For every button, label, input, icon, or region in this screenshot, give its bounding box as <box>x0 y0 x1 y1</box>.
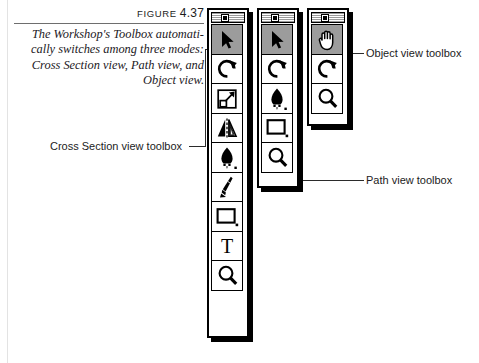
tool-button-magnifier[interactable] <box>261 142 293 173</box>
toolbox-palette-object-view[interactable] <box>307 8 349 126</box>
caption-line: Object view. <box>14 73 204 88</box>
magnifier-icon <box>316 87 339 110</box>
tool-button-arrow-select[interactable] <box>261 24 293 55</box>
arrow-select-icon <box>216 29 238 51</box>
toolbox-palette-cross-section-view[interactable]: T <box>207 8 249 338</box>
palette-titlebar[interactable] <box>211 12 245 23</box>
tool-button-rectangle[interactable] <box>261 113 293 144</box>
scale-icon <box>216 88 238 110</box>
tool-button-rectangle[interactable] <box>211 201 243 232</box>
mirror-icon <box>216 117 238 139</box>
magnifier-icon <box>266 146 289 169</box>
close-box-icon[interactable] <box>271 14 279 22</box>
rectangle-icon <box>215 206 239 228</box>
palette-titlebar[interactable] <box>261 12 295 23</box>
tool-button-magnifier[interactable] <box>211 260 243 291</box>
tool-button-mirror[interactable] <box>211 113 243 144</box>
caption-line: Cross Section view, Path view, and <box>14 58 204 73</box>
tool-button-rotate[interactable] <box>261 54 293 85</box>
hand-icon <box>315 28 339 52</box>
brush-icon <box>216 175 238 199</box>
tool-button-brush[interactable] <box>211 172 243 203</box>
figure-label-number: 4.37 <box>180 6 204 20</box>
tool-column: T <box>211 24 245 291</box>
callout-label-cross-section: Cross Section view toolbox <box>50 140 182 152</box>
rotate-icon <box>316 58 339 80</box>
svg-text:T: T <box>221 235 233 257</box>
tool-column <box>311 24 345 114</box>
close-box-icon[interactable] <box>221 14 229 22</box>
callout-label-path-view: Path view toolbox <box>366 174 452 186</box>
tool-button-rotate[interactable] <box>211 54 243 85</box>
toolbox-palette-path-view[interactable] <box>257 8 299 188</box>
page-gutter-rule <box>7 0 8 363</box>
close-box-icon[interactable] <box>321 14 329 22</box>
tool-button-rotate[interactable] <box>311 54 343 85</box>
tool-button-scale[interactable] <box>211 83 243 114</box>
caption-line: The Workshop's Toolbox automati- <box>14 27 204 42</box>
tool-button-text-tool[interactable]: T <box>211 231 243 262</box>
tool-column <box>261 24 295 173</box>
pen-nib-icon <box>266 87 288 111</box>
figure-label: FIGURE 4.37 <box>14 6 204 22</box>
tool-button-magnifier[interactable] <box>311 83 343 114</box>
leader-line-cross-section-v <box>205 49 206 147</box>
leader-line-cross-section-h1 <box>189 146 206 147</box>
caption-line: cally switches among three modes: <box>14 42 204 57</box>
pen-nib-icon <box>216 146 238 170</box>
text-tool-icon: T <box>216 235 238 257</box>
rotate-icon <box>216 58 239 80</box>
rectangle-icon <box>265 117 289 139</box>
figure-label-word: FIGURE <box>137 8 177 19</box>
tool-button-hand[interactable] <box>311 24 343 55</box>
arrow-select-icon <box>266 29 288 51</box>
tool-button-arrow-select[interactable] <box>211 24 243 55</box>
figure-rule <box>14 23 204 24</box>
tool-button-pen-nib[interactable] <box>211 142 243 173</box>
callout-label-object-view: Object view toolbox <box>366 47 461 59</box>
figure-caption-text: The Workshop's Toolbox automati- cally s… <box>14 27 204 89</box>
rotate-icon <box>266 58 289 80</box>
tool-button-pen-nib[interactable] <box>261 83 293 114</box>
figure-caption-block: FIGURE 4.37 The Workshop's Toolbox autom… <box>14 6 204 89</box>
palette-titlebar[interactable] <box>311 12 345 23</box>
magnifier-icon <box>216 264 239 287</box>
